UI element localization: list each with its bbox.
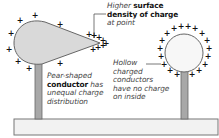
svg-text:+: + — [185, 22, 192, 31]
svg-text:+: + — [174, 70, 181, 79]
svg-text:+: + — [157, 44, 164, 53]
hollow-conductor-label: Hollow charged conductors have no charge… — [113, 59, 169, 102]
svg-text:+: + — [15, 57, 22, 66]
svg-text:+: + — [6, 45, 13, 54]
higher-density-label: Higher surface density of charge at poin… — [107, 2, 178, 28]
label-text: distribution — [47, 98, 103, 107]
base-platform — [14, 119, 218, 135]
svg-text:+: + — [8, 29, 15, 38]
svg-text:+: + — [26, 64, 33, 73]
svg-text:+: + — [178, 22, 185, 31]
label-text: on inside — [113, 93, 169, 102]
svg-text:+: + — [202, 60, 209, 69]
svg-text:+: + — [32, 11, 39, 20]
svg-text:+: + — [90, 45, 97, 54]
svg-text:+: + — [159, 36, 166, 45]
label-text: at point — [107, 19, 178, 28]
pear-stand — [35, 62, 42, 119]
svg-text:+: + — [17, 16, 24, 25]
pear-conductor-label: Pear-shaped conductor has unequal charge… — [47, 72, 103, 106]
svg-text:+: + — [189, 70, 196, 79]
sphere-stand — [181, 68, 188, 119]
svg-text:+: + — [192, 24, 199, 33]
svg-text:+: + — [196, 66, 203, 75]
svg-text:+: + — [57, 20, 64, 29]
svg-text:+: + — [57, 59, 64, 68]
